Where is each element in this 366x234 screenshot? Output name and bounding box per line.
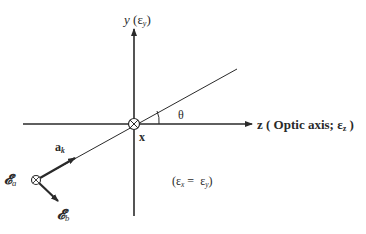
relation-equals: = bbox=[184, 174, 200, 188]
z-text: z ( Optic axis; bbox=[257, 117, 337, 132]
diagram: y (εy) z ( Optic axis; εz ) x θ ak 𝓔a 𝓔b… bbox=[0, 0, 366, 234]
x-axis-into-page-icon bbox=[129, 119, 140, 130]
field-b-arrow bbox=[38, 182, 58, 201]
relation-paren-close: ) bbox=[209, 174, 213, 188]
field-b-symbol: 𝓔 bbox=[57, 206, 65, 222]
field-b-label: 𝓔b bbox=[57, 207, 69, 223]
field-a-into-page-icon bbox=[32, 176, 41, 185]
z-paren-close: ) bbox=[346, 117, 354, 132]
wave-vector-label: ak bbox=[55, 141, 65, 154]
field-a-sub: a bbox=[12, 178, 16, 188]
y-axis-label: y (εy) bbox=[124, 13, 151, 28]
x-axis-label: x bbox=[139, 131, 145, 143]
z-axis-label: z ( Optic axis; εz ) bbox=[257, 118, 354, 133]
field-b-sub: b bbox=[65, 213, 69, 223]
theta-symbol: θ bbox=[178, 108, 184, 122]
field-a-label: 𝓔a bbox=[4, 172, 16, 188]
wave-vector-arrow bbox=[40, 158, 75, 178]
y-symbol: y bbox=[124, 12, 130, 27]
field-a-symbol: 𝓔 bbox=[4, 171, 12, 187]
y-paren-close: ) bbox=[146, 12, 150, 27]
wave-vector-sub: k bbox=[61, 146, 65, 155]
angle-label: θ bbox=[178, 109, 184, 121]
x-symbol: x bbox=[139, 130, 145, 144]
theta-arc bbox=[157, 111, 159, 124]
permittivity-relation: (εx = εy) bbox=[172, 175, 213, 188]
